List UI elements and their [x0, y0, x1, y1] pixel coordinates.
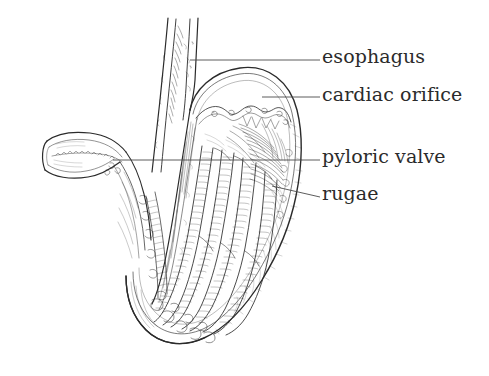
figure-page: esophagus cardiac orifice pyloric valve …: [0, 0, 489, 376]
label-pyloric-valve: pyloric valve: [322, 147, 446, 166]
label-esophagus: esophagus: [322, 47, 425, 66]
label-rugae: rugae: [322, 184, 379, 203]
label-cardiac-orifice: cardiac orifice: [322, 85, 462, 104]
